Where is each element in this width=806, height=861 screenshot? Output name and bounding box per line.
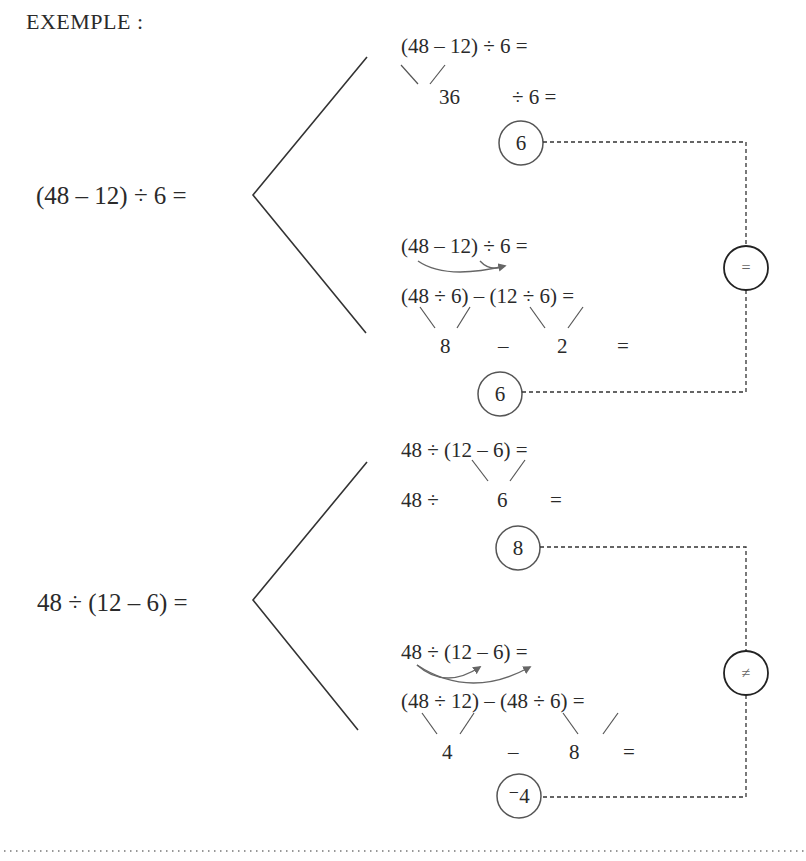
- result-1a: 6: [499, 133, 543, 154]
- dashed-bracket-1: [522, 142, 746, 392]
- example-2b-line3-eq: =: [623, 742, 635, 763]
- example-1b-line1: (48 – 12) ÷ 6 =: [401, 236, 528, 257]
- branch-chevron-1: [253, 57, 367, 333]
- example-heading: EXEMPLE :: [26, 11, 144, 33]
- equal-symbol: =: [724, 260, 768, 276]
- not-equal-symbol: ≠: [724, 665, 768, 681]
- example-1b-line3-eq: =: [617, 336, 629, 357]
- example-2b-line3-b: 8: [569, 742, 580, 763]
- distribution-arrows-2: [417, 665, 530, 683]
- example-1-expression: (48 – 12) ÷ 6 =: [36, 183, 187, 208]
- distribution-arrows-1: [418, 261, 505, 272]
- example-2a-line2-value: 6: [497, 490, 508, 511]
- example-1a-line2-rest: ÷ 6 =: [512, 87, 556, 108]
- diagram-graphics: [0, 0, 806, 861]
- example-2a-line2-eq: =: [550, 490, 562, 511]
- connector-lines-1b: [420, 307, 583, 328]
- example-2a-line1: 48 ÷ (12 – 6) =: [401, 440, 528, 461]
- example-1a-line1: (48 – 12) ÷ 6 =: [401, 36, 528, 57]
- example-2a-line2-prefix: 48 ÷: [401, 490, 439, 511]
- result-2b: ⁻4: [497, 786, 541, 807]
- connector-lines-1a: [401, 65, 445, 84]
- example-2b-line2: (48 ÷ 12) – (48 ÷ 6) =: [401, 691, 585, 712]
- result-1b: 6: [478, 384, 522, 405]
- example-2b-line3-op: –: [508, 742, 519, 763]
- example-2b-line1: 48 ÷ (12 – 6) =: [401, 642, 528, 663]
- example-2b-line3-a: 4: [442, 742, 453, 763]
- example-1a-line2-value: 36: [439, 87, 460, 108]
- result-2a: 8: [496, 538, 540, 559]
- connector-lines-2a: [472, 460, 525, 481]
- example-1b-line2: (48 ÷ 6) – (12 ÷ 6) =: [401, 286, 574, 307]
- branch-chevron-2: [253, 462, 367, 730]
- example-1b-line3-op: –: [498, 336, 509, 357]
- example-2-expression: 48 ÷ (12 – 6) =: [37, 590, 188, 615]
- example-1b-line3-a: 8: [440, 336, 451, 357]
- connector-lines-2b: [422, 713, 618, 734]
- example-1b-line3-b: 2: [557, 336, 568, 357]
